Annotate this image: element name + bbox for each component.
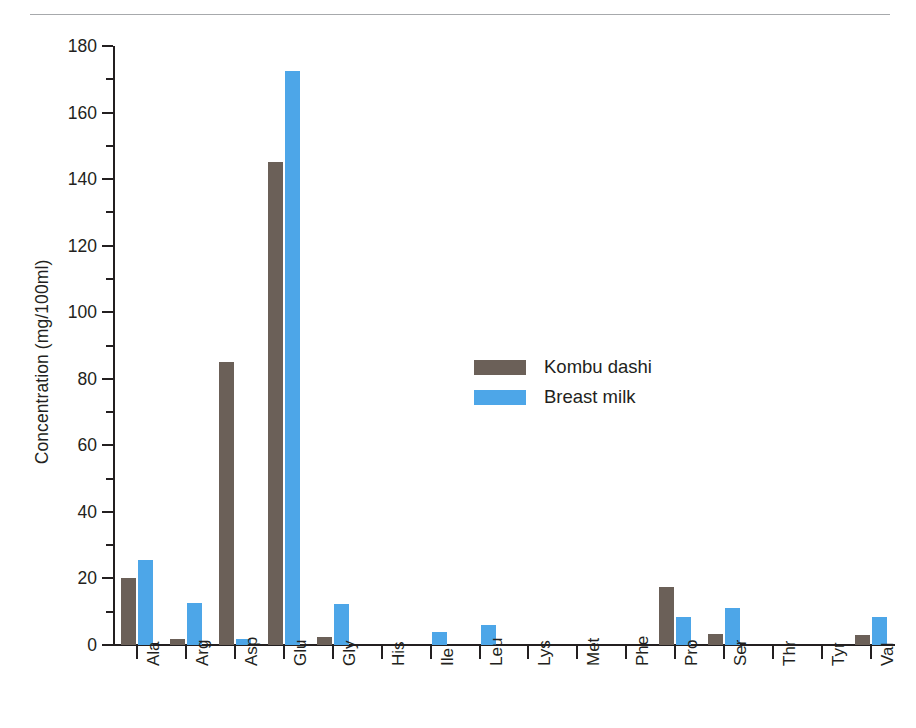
y-axis-tick-minor — [106, 411, 113, 413]
bar-ser-kombu-dashi — [708, 634, 723, 645]
y-axis-tick-major: 20 — [102, 577, 113, 579]
bar-val-breast-milk — [872, 617, 887, 645]
y-axis-tick-major: 140 — [102, 178, 113, 180]
x-axis-label-text: Glu — [292, 640, 309, 666]
bar-val-kombu-dashi — [855, 635, 870, 645]
x-axis-tick — [479, 646, 481, 659]
x-axis-tick — [283, 646, 285, 659]
legend-item-kombu-dashi: Kombu dashi — [474, 352, 704, 382]
x-axis-tick — [527, 646, 529, 659]
x-axis-label-text: Pro — [683, 640, 700, 666]
legend-swatch-kombu-dashi — [474, 360, 526, 375]
y-axis-tick-label: 140 — [68, 169, 97, 190]
x-axis-tick — [576, 646, 578, 659]
y-axis-tick-label: 160 — [68, 102, 97, 123]
x-axis-tick — [185, 646, 187, 659]
y-axis-tick-label: 80 — [78, 368, 97, 389]
x-axis-label-text: Thr — [781, 641, 798, 667]
x-axis-label-text: His — [390, 641, 407, 666]
x-axis-tick — [234, 646, 236, 659]
y-axis-tick-minor — [106, 345, 113, 347]
x-axis-label-text: Ala — [145, 641, 162, 666]
chart-legend: Kombu dashi Breast milk — [474, 352, 704, 412]
y-axis-tick-label: 20 — [78, 568, 97, 589]
bar-glu-kombu-dashi — [268, 162, 283, 645]
y-axis-tick-minor — [106, 278, 113, 280]
y-axis-tick-minor — [106, 478, 113, 480]
bar-gly-breast-milk — [334, 604, 349, 645]
x-axis-tick — [332, 646, 334, 659]
y-axis-tick-label: 60 — [78, 435, 97, 456]
x-axis-label-text: Asp — [243, 637, 260, 666]
y-axis-tick-major: 0 — [102, 644, 113, 646]
y-axis-tick-minor — [106, 211, 113, 213]
y-axis-tick-minor — [106, 145, 113, 147]
x-axis-tick — [870, 646, 872, 659]
x-axis-label-text: Tyr — [830, 642, 847, 666]
legend-item-breast-milk: Breast milk — [474, 382, 704, 412]
y-axis-tick-label: 180 — [68, 36, 97, 57]
y-axis-tick-minor — [106, 611, 113, 613]
bar-ala-breast-milk — [138, 560, 153, 645]
x-axis-tick — [821, 646, 823, 659]
y-axis-tick-label: 100 — [68, 302, 97, 323]
y-axis-tick-minor — [106, 78, 113, 80]
bar-asp-kombu-dashi — [219, 362, 234, 645]
x-axis-tick — [674, 646, 676, 659]
figure-canvas: Concentration (mg/100ml) 020406080100120… — [0, 0, 916, 728]
y-axis-tick-major: 60 — [102, 444, 113, 446]
x-axis-tick — [625, 646, 627, 659]
y-axis-tick-major: 80 — [102, 378, 113, 380]
x-axis-tick — [430, 646, 432, 659]
legend-label-breast-milk: Breast milk — [544, 386, 636, 408]
x-axis-label-text: Met — [585, 638, 602, 666]
legend-swatch-breast-milk — [474, 390, 526, 405]
x-axis-label-text: Leu — [488, 638, 505, 666]
x-axis-label-text: Val — [879, 643, 896, 666]
y-axis-tick-label: 40 — [78, 501, 97, 522]
x-axis-label-text: Phe — [634, 636, 651, 666]
header-rule — [30, 14, 890, 15]
x-axis-label-text: Ile — [439, 648, 456, 666]
x-axis-label-text: Arg — [194, 640, 211, 666]
y-axis-tick-label: 0 — [87, 635, 97, 656]
y-axis-tick-major: 120 — [102, 245, 113, 247]
x-axis-tick — [772, 646, 774, 659]
y-axis-tick-major: 180 — [102, 45, 113, 47]
x-axis-tick — [723, 646, 725, 659]
bar-ile-breast-milk — [432, 632, 447, 645]
bar-ala-kombu-dashi — [121, 578, 136, 645]
x-axis-tick — [381, 646, 383, 659]
legend-label-kombu-dashi: Kombu dashi — [544, 356, 652, 378]
y-axis-title: Concentration (mg/100ml) — [25, 62, 59, 662]
x-axis-label-text: Ser — [732, 640, 749, 666]
x-axis-label-text: Gly — [341, 641, 358, 667]
y-axis-tick-major: 40 — [102, 511, 113, 513]
bar-gly-kombu-dashi — [317, 637, 332, 645]
y-axis-tick-minor — [106, 544, 113, 546]
bar-pro-kombu-dashi — [659, 587, 674, 645]
bars-layer — [113, 46, 895, 645]
bar-arg-kombu-dashi — [170, 639, 185, 645]
x-axis-label-text: Lys — [536, 640, 553, 666]
y-axis-tick-major: 100 — [102, 311, 113, 313]
x-axis-tick — [136, 646, 138, 659]
bar-glu-breast-milk — [285, 71, 300, 645]
y-axis-tick-label: 120 — [68, 235, 97, 256]
y-axis-tick-major: 160 — [102, 112, 113, 114]
